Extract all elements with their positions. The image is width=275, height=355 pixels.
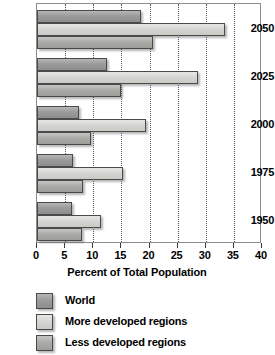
plot-area <box>36 3 261 243</box>
bar-world-2050 <box>37 10 141 23</box>
bar-group-2050 <box>37 10 260 49</box>
legend-item-world: World <box>36 292 274 313</box>
legend-label-less: Less developed regions <box>65 336 186 348</box>
x-tick-mark-40 <box>261 243 262 248</box>
x-tick-label-0: 0 <box>24 249 48 261</box>
x-tick-label-15: 15 <box>108 249 132 261</box>
x-tick-label-20: 20 <box>137 249 161 261</box>
bar-less-2025 <box>37 84 121 97</box>
y-axis-label-2000: 2000 <box>240 118 274 130</box>
x-tick-label-25: 25 <box>165 249 189 261</box>
y-axis-label-1950: 1950 <box>240 214 274 226</box>
y-axis-label-2025: 2025 <box>240 70 274 82</box>
x-tick-mark-0 <box>36 243 37 248</box>
bar-more-2025 <box>37 71 198 84</box>
legend-label-world: World <box>65 294 95 306</box>
x-tick-label-10: 10 <box>80 249 104 261</box>
bar-less-2000 <box>37 132 91 145</box>
x-tick-mark-20 <box>149 243 150 248</box>
bar-group-2000 <box>37 106 260 145</box>
x-axis-title: Percent of Total Population <box>0 266 274 278</box>
bar-world-2000 <box>37 106 79 119</box>
bar-less-1975 <box>37 180 83 193</box>
x-tick-mark-5 <box>64 243 65 248</box>
bar-less-2050 <box>37 36 153 49</box>
x-tick-mark-30 <box>205 243 206 248</box>
bar-less-1950 <box>37 228 82 241</box>
legend-swatch-less <box>36 335 53 351</box>
x-tick-mark-35 <box>233 243 234 248</box>
legend-swatch-world <box>36 293 53 309</box>
chart-legend: WorldMore developed regionsLess develope… <box>36 292 274 355</box>
bar-world-1975 <box>37 154 73 167</box>
bar-more-1950 <box>37 215 101 228</box>
x-tick-mark-10 <box>92 243 93 248</box>
legend-item-more: More developed regions <box>36 313 274 334</box>
legend-swatch-more <box>36 314 53 330</box>
plot-inner <box>37 4 260 242</box>
bar-world-1950 <box>37 202 72 215</box>
bar-group-1975 <box>37 154 260 193</box>
bar-more-2000 <box>37 119 146 132</box>
x-tick-mark-15 <box>120 243 121 248</box>
x-tick-label-35: 35 <box>221 249 245 261</box>
y-axis-label-2050: 2050 <box>240 22 274 34</box>
bar-group-2025 <box>37 58 260 97</box>
x-tick-label-40: 40 <box>249 249 273 261</box>
y-axis-label-1975: 1975 <box>240 166 274 178</box>
bar-world-2025 <box>37 58 107 71</box>
legend-label-more: More developed regions <box>65 315 187 327</box>
bar-more-2050 <box>37 23 225 36</box>
x-tick-mark-25 <box>177 243 178 248</box>
legend-item-less: Less developed regions <box>36 334 274 355</box>
bar-more-1975 <box>37 167 123 180</box>
bar-group-1950 <box>37 202 260 241</box>
x-tick-label-5: 5 <box>52 249 76 261</box>
x-tick-label-30: 30 <box>193 249 217 261</box>
